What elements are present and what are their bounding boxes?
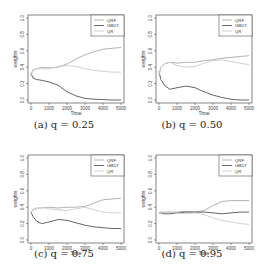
legend-label: QRF xyxy=(235,158,244,163)
y-tick-label: 0.4 xyxy=(148,204,153,211)
series-line-gbdt xyxy=(31,212,121,228)
y-tick-label: 1.0 xyxy=(20,14,25,21)
x-axis-label: Time xyxy=(71,110,82,116)
y-tick-label: 0.8 xyxy=(20,171,25,178)
series-line-qrf xyxy=(159,201,249,213)
legend-label: QR xyxy=(235,169,241,174)
x-tick-label: 0 xyxy=(30,106,33,111)
series-line-qrf xyxy=(31,198,121,213)
y-axis-label: weights xyxy=(140,190,146,207)
series-line-qr xyxy=(159,212,249,224)
caption-b: (b) q = 0.50 xyxy=(128,119,256,130)
legend-label: QRF xyxy=(235,18,244,23)
legend-label: QR xyxy=(235,29,241,34)
caption-c: (c) q = 0.75 xyxy=(0,248,128,259)
line-chart-a: 0.00.20.40.60.81.0010002000300040005000T… xyxy=(0,0,128,120)
legend-label: QR xyxy=(107,29,113,34)
line-chart-c: 0.00.20.40.60.81.0010002000300040005000T… xyxy=(0,140,128,260)
y-tick-label: 0.0 xyxy=(148,96,153,103)
y-tick-label: 0.2 xyxy=(148,220,153,227)
series-line-gbdt xyxy=(159,71,249,100)
y-tick-label: 1.0 xyxy=(148,154,153,161)
legend-label: GBDT xyxy=(107,23,119,28)
chart-panel-b: 0.00.20.40.60.81.0010002000300040005000T… xyxy=(128,0,256,140)
y-tick-label: 1.0 xyxy=(20,154,25,161)
x-tick-label: 5000 xyxy=(116,106,127,111)
y-tick-label: 0.2 xyxy=(20,80,25,87)
y-tick-label: 0.0 xyxy=(20,96,25,103)
legend-label: QR xyxy=(107,169,113,174)
series-line-qr xyxy=(159,60,249,76)
y-tick-label: 0.4 xyxy=(20,64,25,71)
x-tick-label: 3000 xyxy=(80,106,91,111)
legend-label: GBDT xyxy=(235,23,247,28)
chart-panel-a: 0.00.20.40.60.81.0010002000300040005000T… xyxy=(0,0,128,140)
y-tick-label: 0.2 xyxy=(20,220,25,227)
series-line-qrf xyxy=(31,48,121,76)
x-tick-label: 1000 xyxy=(172,106,183,111)
x-tick-label: 4000 xyxy=(226,106,237,111)
x-tick-label: 3000 xyxy=(208,106,219,111)
y-axis-label: weights xyxy=(140,50,146,67)
y-tick-label: 0.8 xyxy=(148,31,153,38)
y-tick-label: 1.0 xyxy=(148,14,153,21)
line-chart-d: 0.00.20.40.60.81.0010002000300040005000T… xyxy=(128,140,256,260)
line-chart-b: 0.00.20.40.60.81.0010002000300040005000T… xyxy=(128,0,256,120)
x-tick-label: 0 xyxy=(158,106,161,111)
x-axis-label: Time xyxy=(199,110,210,116)
caption-d: (d) q = 0.95 xyxy=(128,248,256,259)
legend-label: QRF xyxy=(107,158,116,163)
y-tick-label: 0.4 xyxy=(20,204,25,211)
legend-label: GBDT xyxy=(235,163,247,168)
legend-label: QRF xyxy=(107,18,116,23)
y-tick-label: 0.0 xyxy=(20,236,25,243)
y-tick-label: 0.2 xyxy=(148,80,153,87)
y-axis-label: weights xyxy=(12,50,18,67)
series-line-gbdt xyxy=(31,73,121,100)
legend-label: GBDT xyxy=(107,163,119,168)
y-tick-label: 0.0 xyxy=(148,236,153,243)
y-axis-label: weights xyxy=(12,190,18,207)
y-tick-label: 0.6 xyxy=(148,187,153,194)
x-tick-label: 4000 xyxy=(98,106,109,111)
y-tick-label: 0.6 xyxy=(20,47,25,54)
y-tick-label: 0.6 xyxy=(148,47,153,54)
caption-a: (a) q = 0.25 xyxy=(0,119,128,130)
x-tick-label: 1000 xyxy=(44,106,55,111)
y-tick-label: 0.4 xyxy=(148,64,153,71)
x-tick-label: 5000 xyxy=(244,106,255,111)
chart-panel-d: 0.00.20.40.60.81.0010002000300040005000T… xyxy=(128,140,256,280)
series-line-qr xyxy=(31,207,121,213)
y-tick-label: 0.8 xyxy=(148,171,153,178)
y-tick-label: 0.8 xyxy=(20,31,25,38)
chart-panel-c: 0.00.20.40.60.81.0010002000300040005000T… xyxy=(0,140,128,280)
series-line-qrf xyxy=(159,56,249,76)
y-tick-label: 0.6 xyxy=(20,187,25,194)
